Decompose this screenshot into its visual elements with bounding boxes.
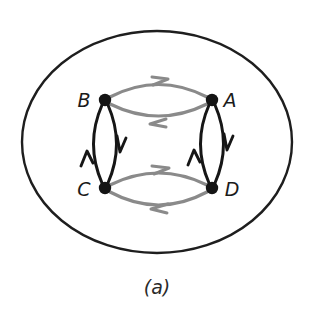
arrowhead-b-to-c — [117, 136, 126, 152]
node-a[interactable] — [206, 94, 218, 106]
node-label-a: A — [222, 89, 237, 111]
node-label-d: D — [225, 178, 240, 200]
edge-a-to-b — [110, 104, 207, 116]
node-label-b: B — [77, 89, 90, 111]
arrowhead-a-to-b — [150, 119, 166, 127]
edge-group-right-vertical — [188, 105, 233, 183]
edge-b-to-a — [110, 85, 207, 98]
directed-graph-diagram: B A C D (a) — [0, 0, 315, 312]
node-c[interactable] — [99, 182, 111, 194]
arrowhead-c-to-b — [81, 151, 93, 166]
edge-group-top-horizontal — [110, 77, 207, 127]
figure-container: B A C D (a) — [0, 0, 315, 312]
edge-c-to-d — [110, 173, 207, 185]
edge-b-to-c — [108, 105, 117, 183]
edge-group-left-vertical — [81, 105, 126, 183]
arrowhead-a-to-d — [224, 134, 233, 150]
figure-caption: (a) — [144, 276, 170, 298]
edge-d-to-a — [201, 105, 210, 183]
edge-d-to-c — [110, 192, 207, 205]
node-b[interactable] — [99, 94, 111, 106]
arrowhead-d-to-a — [188, 150, 200, 165]
node-d[interactable] — [206, 182, 218, 194]
edge-a-to-d — [215, 105, 224, 183]
outer-boundary-ellipse — [22, 31, 292, 253]
edge-c-to-b — [94, 105, 103, 183]
node-label-c: C — [77, 178, 91, 200]
edge-group-bottom-horizontal — [110, 166, 207, 213]
